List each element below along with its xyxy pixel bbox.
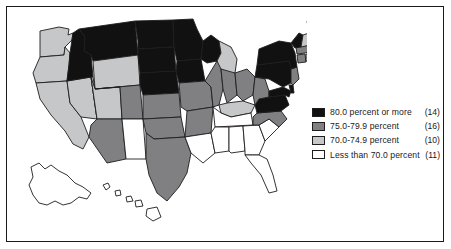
state-ND[interactable]	[135, 20, 174, 49]
state-AK[interactable]	[29, 163, 91, 205]
state-NJ[interactable]	[291, 67, 299, 85]
state-MO[interactable]	[179, 81, 213, 111]
figure-container: 80.0 percent or more (14) 75.0-79.9 perc…	[0, 0, 451, 249]
state-IA[interactable]	[176, 59, 205, 83]
map-legend: 80.0 percent or more (14) 75.0-79.9 perc…	[312, 105, 440, 162]
state-HI-island-1[interactable]	[103, 183, 110, 190]
legend-row-70-to-74: 70.0-74.9 percent (10)	[312, 133, 440, 147]
state-RI[interactable]	[306, 54, 307, 61]
state-MD[interactable]	[269, 87, 291, 97]
figure-frame: 80.0 percent or more (14) 75.0-79.9 perc…	[6, 6, 444, 242]
legend-row-75-to-79: 75.0-79.9 percent (16)	[312, 119, 440, 133]
legend-label-80-or-more: 80.0 percent or more	[330, 107, 425, 117]
state-IN[interactable]	[221, 69, 237, 103]
legend-count-less-than-70: (11)	[425, 150, 440, 160]
state-SD[interactable]	[138, 47, 176, 73]
legend-swatch-75-to-79	[312, 122, 325, 131]
legend-count-70-to-74: (10)	[425, 135, 440, 145]
state-NE[interactable]	[140, 71, 179, 95]
state-HI-island-5[interactable]	[146, 207, 161, 221]
state-HI-island-2[interactable]	[115, 190, 121, 196]
legend-label-less-than-70: Less than 70.0 percent	[330, 150, 425, 160]
legend-swatch-70-to-74	[312, 136, 325, 145]
state-KS[interactable]	[143, 93, 181, 119]
legend-swatch-less-than-70	[312, 150, 325, 159]
state-MN[interactable]	[173, 19, 203, 61]
us-choropleth-map	[7, 7, 307, 243]
legend-row-80-or-more: 80.0 percent or more (14)	[312, 105, 440, 119]
state-AR[interactable]	[185, 107, 213, 137]
state-TX[interactable]	[146, 133, 191, 201]
state-OH[interactable]	[235, 69, 255, 101]
state-FL[interactable]	[245, 155, 277, 193]
state-AZ[interactable]	[89, 119, 126, 163]
legend-label-75-to-79: 75.0-79.9 percent	[330, 121, 425, 131]
state-HI-island-4[interactable]	[135, 200, 143, 207]
state-NM[interactable]	[122, 119, 146, 159]
map-svg	[7, 7, 307, 243]
state-AL[interactable]	[229, 126, 245, 153]
legend-swatch-80-or-more	[312, 108, 325, 117]
legend-row-less-than-70: Less than 70.0 percent (11)	[312, 148, 440, 162]
legend-label-70-to-74: 70.0-74.9 percent	[330, 135, 425, 145]
state-CT[interactable]	[297, 54, 306, 63]
legend-count-80-or-more: (14)	[425, 107, 440, 117]
state-HI-island-3[interactable]	[126, 196, 133, 202]
legend-count-75-to-79: (16)	[425, 121, 440, 131]
state-WY[interactable]	[93, 55, 140, 89]
